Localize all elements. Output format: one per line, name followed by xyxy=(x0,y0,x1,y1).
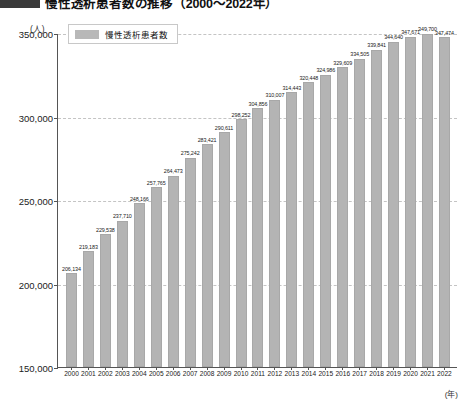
x-axis-tick-label: 2010 xyxy=(234,370,249,377)
bar-2021[interactable] xyxy=(422,34,433,367)
bar-value-label: 304,856 xyxy=(249,101,268,107)
bar-2013[interactable] xyxy=(286,92,297,367)
bar-2014[interactable] xyxy=(303,82,314,367)
bar-slot: 314,4432013 xyxy=(283,34,300,367)
bar-slot: 310,0072012 xyxy=(266,34,283,367)
bar-2009[interactable] xyxy=(219,132,230,367)
bar-2020[interactable] xyxy=(405,37,416,367)
bar-value-label: 219,183 xyxy=(79,244,98,250)
bar-slot: 320,4482014 xyxy=(300,34,317,367)
bar-2010[interactable] xyxy=(236,119,247,367)
bar-value-label: 206,134 xyxy=(62,266,81,272)
bar-slot: 344,6402019 xyxy=(385,34,402,367)
bar-value-label: 290,611 xyxy=(215,125,233,131)
bar-2003[interactable] xyxy=(117,221,128,367)
bar-slot: 334,5052017 xyxy=(351,34,368,367)
x-axis-tick-label: 2001 xyxy=(81,370,96,377)
x-axis-tick-label: 2019 xyxy=(386,370,401,377)
bar-value-label: 283,421 xyxy=(198,137,217,143)
bar-slot: 298,2522010 xyxy=(233,34,250,367)
bar-value-label: 314,443 xyxy=(282,85,301,91)
bar-2015[interactable] xyxy=(320,75,331,367)
x-axis-tick-label: 2015 xyxy=(318,370,333,377)
y-axis-tick-label: 200,000 xyxy=(19,279,53,290)
bar-slot: 248,1662004 xyxy=(131,34,148,367)
y-axis-tick-label: 250,000 xyxy=(19,196,53,207)
bar-slot: 206,1342000 xyxy=(63,34,80,367)
bar-2012[interactable] xyxy=(269,100,280,367)
bar-value-label: 257,765 xyxy=(147,180,166,186)
x-axis-tick-label: 2008 xyxy=(200,370,215,377)
chart-legend: 慢性透析患者数 xyxy=(68,24,178,44)
bar-2004[interactable] xyxy=(134,203,145,367)
bar-2000[interactable] xyxy=(66,273,77,367)
x-axis-tick-label: 2003 xyxy=(115,370,130,377)
bar-slot: 347,4742022 xyxy=(436,34,453,367)
bar-2017[interactable] xyxy=(354,59,365,367)
chart-plot-area: 150,000200,000250,000300,000350,000 206,… xyxy=(57,34,457,368)
bar-value-label: 320,448 xyxy=(299,75,318,81)
bar-2011[interactable] xyxy=(252,108,263,367)
bar-slot: 324,9862015 xyxy=(317,34,334,367)
bar-value-label: 298,252 xyxy=(232,112,251,118)
bar-2008[interactable] xyxy=(202,144,213,367)
x-axis-tick-label: 2013 xyxy=(285,370,300,377)
bar-value-label: 310,007 xyxy=(266,92,285,98)
bar-slot: 219,1832001 xyxy=(80,34,97,367)
bar-value-label: 248,166 xyxy=(130,196,149,202)
x-axis-tick-label: 2021 xyxy=(420,370,435,377)
bar-slot: 290,6112009 xyxy=(216,34,233,367)
bar-value-label: 275,242 xyxy=(181,150,200,156)
x-axis-tick-label: 2011 xyxy=(251,370,265,377)
legend-swatch-icon xyxy=(75,30,99,39)
bar-value-label: 237,710 xyxy=(113,213,132,219)
x-axis-tick-label: 2002 xyxy=(98,370,113,377)
bar-2018[interactable] xyxy=(371,50,382,367)
bar-2022[interactable] xyxy=(439,37,450,367)
bar-2016[interactable] xyxy=(337,67,348,367)
y-axis-tick-mark xyxy=(54,368,58,369)
bar-2005[interactable] xyxy=(151,187,162,367)
x-axis-tick-label: 2016 xyxy=(335,370,350,377)
x-axis-tick-label: 2000 xyxy=(64,370,79,377)
bar-slot: 304,8562011 xyxy=(249,34,266,367)
bar-value-label: 324,986 xyxy=(316,67,335,73)
y-axis-tick-label: 150,000 xyxy=(19,363,53,374)
x-axis-tick-label: 2012 xyxy=(268,370,283,377)
bar-value-label: 264,473 xyxy=(164,168,183,174)
x-axis-unit-label: (年) xyxy=(445,388,458,399)
x-axis-tick-label: 2022 xyxy=(437,370,452,377)
title-badge-icon xyxy=(0,0,40,8)
bar-value-label: 339,841 xyxy=(367,42,386,48)
x-axis-tick-label: 2007 xyxy=(183,370,198,377)
bar-series-group: 206,1342000219,1832001229,5382002237,710… xyxy=(58,34,457,367)
bar-slot: 283,4212008 xyxy=(199,34,216,367)
bar-slot: 229,5382002 xyxy=(97,34,114,367)
bar-value-label: 329,609 xyxy=(333,60,352,66)
bar-2006[interactable] xyxy=(168,176,179,367)
bar-slot: 257,7652005 xyxy=(148,34,165,367)
bar-2007[interactable] xyxy=(185,158,196,367)
bar-value-label: 347,474 xyxy=(435,30,454,36)
x-axis-tick-label: 2018 xyxy=(369,370,384,377)
bar-value-label: 334,505 xyxy=(350,51,369,57)
bar-2019[interactable] xyxy=(388,42,399,367)
x-axis-tick-label: 2006 xyxy=(166,370,181,377)
x-axis-tick-label: 2017 xyxy=(352,370,367,377)
bar-slot: 339,8412018 xyxy=(368,34,385,367)
y-axis-tick-label: 300,000 xyxy=(19,112,53,123)
x-axis-tick-label: 2004 xyxy=(132,370,147,377)
bar-value-label: 229,538 xyxy=(96,227,115,233)
y-axis-tick-label: 350,000 xyxy=(19,29,53,40)
x-axis-tick-label: 2014 xyxy=(301,370,316,377)
bar-slot: 237,7102003 xyxy=(114,34,131,367)
legend-item-label: 慢性透析患者数 xyxy=(105,28,168,40)
x-axis-tick-label: 2009 xyxy=(217,370,232,377)
bar-2002[interactable] xyxy=(100,234,111,367)
bar-2001[interactable] xyxy=(83,251,94,367)
bar-slot: 349,7002021 xyxy=(419,34,436,367)
x-axis-tick-label: 2020 xyxy=(403,370,418,377)
bar-slot: 329,6092016 xyxy=(334,34,351,367)
x-axis-tick-label: 2005 xyxy=(149,370,164,377)
page-title: 慢性透析患者数の推移（2000〜2022年） xyxy=(45,0,278,12)
